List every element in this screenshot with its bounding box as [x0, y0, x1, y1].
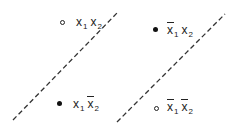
var-not-x2: x2	[181, 101, 192, 115]
var-x2: x2	[181, 24, 192, 38]
open-circle-marker-notx1-notx2	[154, 106, 159, 111]
filled-dot-marker-x1-notx2	[57, 101, 62, 106]
var-not-x2: x2	[87, 98, 98, 112]
label-x1-x2: x1x2	[76, 16, 105, 30]
label-notx1-x2: x1x2	[167, 24, 196, 38]
var-x2: x2	[90, 16, 101, 30]
var-not-x1: x1	[167, 24, 178, 38]
open-circle-marker-x1x2	[60, 20, 65, 25]
var-x1: x1	[76, 16, 87, 30]
filled-dot-marker-notx1-x2	[153, 27, 158, 32]
diagram-canvas	[0, 0, 237, 124]
var-not-x1: x1	[167, 101, 178, 115]
label-x1-notx2: x1x2	[73, 98, 102, 112]
label-notx1-notx2: x1x2	[167, 101, 196, 115]
var-x1: x1	[73, 98, 84, 112]
